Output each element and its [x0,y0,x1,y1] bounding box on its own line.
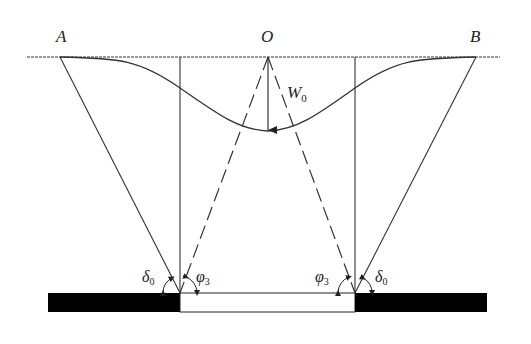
label-phi-left: φ3 [196,268,210,287]
coal-seam-right [355,293,487,312]
dashed-line-right [268,57,355,293]
angle-arc-phi-right [338,277,349,293]
label-point-a: A [55,27,67,46]
dashed-line-left [180,57,268,293]
label-point-o: O [261,27,273,46]
label-point-b: B [470,27,481,46]
label-phi-right: φ3 [315,268,329,287]
goaf-area [180,293,355,312]
boundary-line-a [60,57,180,293]
angle-arc-delta-left [163,278,172,293]
subsidence-diagram: A O B W0 δ0 φ3 φ3 δ0 [0,0,531,344]
angle-arc-delta-right [363,278,372,293]
label-delta-left: δ0 [142,268,154,287]
label-max-subsidence: W0 [287,83,307,104]
coal-seam-left [48,293,180,312]
label-delta-right: δ0 [375,268,387,287]
boundary-line-b [355,57,476,293]
